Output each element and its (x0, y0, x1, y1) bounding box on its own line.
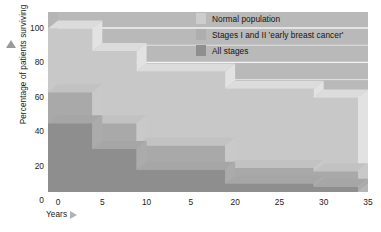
x-tick-label: 0 (56, 197, 61, 207)
x-tick-label: 35 (363, 197, 372, 207)
y-tick-label: 60 (35, 92, 44, 102)
legend-swatch (196, 29, 206, 40)
y-tick-label: 40 (35, 126, 44, 136)
legend-item[interactable]: All stages (196, 44, 343, 57)
x-axis-title-group: Years (46, 210, 77, 219)
series-top-face (225, 81, 324, 89)
series-top-face (137, 162, 236, 170)
legend-label: All stages (212, 46, 248, 56)
legend: Normal populationStages I and II 'early … (196, 12, 343, 57)
legend-swatch (196, 13, 206, 24)
x-tick-label: 10 (142, 197, 151, 207)
x-tick-label: 25 (275, 197, 284, 207)
series-top-face (137, 64, 236, 72)
x-axis-arrow-icon (70, 211, 77, 219)
x-tick-label: 30 (319, 197, 328, 207)
x-axis-title: Years (46, 210, 67, 219)
x-tick-labels: 0510520253035 (0, 197, 381, 211)
x-tick-label: 5 (189, 197, 194, 207)
y-tick-label: 100 (30, 23, 44, 33)
legend-swatch (196, 45, 206, 56)
y-tick-label: 80 (35, 57, 44, 67)
series-top-face (225, 160, 324, 168)
legend-label: Stages I and II 'early breast cancer' (212, 30, 343, 40)
y-axis-arrow-icon (6, 40, 16, 48)
legend-item[interactable]: Stages I and II 'early breast cancer' (196, 28, 343, 41)
legend-label: Normal population (212, 14, 280, 24)
y-tick-label: 20 (35, 161, 44, 171)
series-top-face (225, 175, 324, 183)
x-tick-label: 5 (100, 197, 105, 207)
survival-step-chart: Percentage of patients surviving 0204060… (0, 0, 381, 232)
series-top-face (137, 138, 236, 146)
legend-item[interactable]: Normal population (196, 12, 343, 25)
y-tick-labels: 020406080100 (16, 0, 44, 196)
x-tick-label: 20 (230, 197, 239, 207)
